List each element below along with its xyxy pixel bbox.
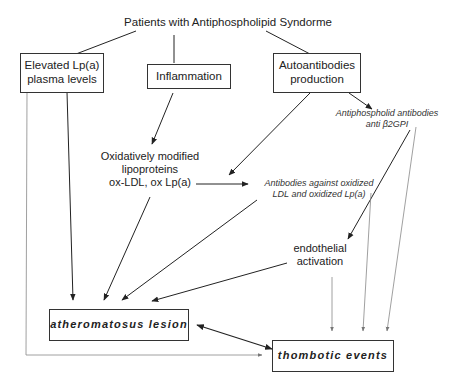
node-autoantibodies: Autoantibodies production (273, 53, 361, 93)
lpa-line1: Elevated Lp(a) (25, 59, 100, 73)
node-endothelial-activation: endothelial activation (290, 242, 350, 268)
node-antiphospholipid-antibodies: Antiphospholid antibodies anti β2GPI (332, 108, 442, 130)
inflammation-label: Inflammation (156, 70, 222, 84)
thrombotic-label: thombotic events (278, 349, 388, 362)
oxidized-line2: lipoproteins (95, 163, 205, 176)
oxidized-line1: Oxidatively modified (95, 150, 205, 163)
autoantibodies-line1: Autoantibodies (279, 59, 355, 73)
title-label: Patients with Antiphospholipid Syndorme (120, 16, 336, 30)
lpa-line2: plasma levels (27, 73, 97, 87)
node-antibodies-oxidized: Antibodies against oxidized LDL and oxid… (260, 178, 378, 200)
node-oxidized-lipoproteins: Oxidatively modified lipoproteins ox-LDL… (95, 150, 205, 190)
antibodies-ox-line2: LDL and oxidized Lp(a) (260, 189, 378, 200)
oxidized-line3: ox-LDL, ox Lp(a) (95, 176, 205, 189)
antiphospholipid-line1: Antiphospholid antibodies (332, 108, 442, 119)
node-inflammation: Inflammation (147, 64, 231, 89)
autoantibodies-line2: production (290, 73, 344, 87)
node-thrombotic-events: thombotic events (272, 340, 394, 372)
node-elevated-lpa: Elevated Lp(a) plasma levels (20, 53, 104, 93)
title-node: Patients with Antiphospholipid Syndorme (120, 16, 336, 30)
node-atheromatous-lesion: atheromatosus lesion (49, 309, 189, 341)
endothelial-line2: activation (290, 255, 350, 268)
antiphospholipid-line2: anti β2GPI (332, 119, 442, 130)
antibodies-ox-line1: Antibodies against oxidized (260, 178, 378, 189)
atheromatous-label: atheromatosus lesion (50, 318, 188, 331)
endothelial-line1: endothelial (290, 242, 350, 255)
